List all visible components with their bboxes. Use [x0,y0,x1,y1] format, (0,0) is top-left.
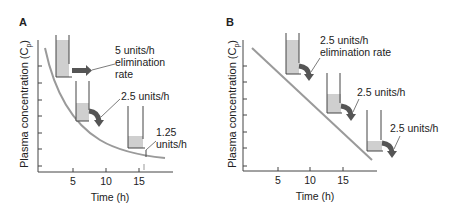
panel-b-xlabel: Time (h) [296,190,335,202]
panel-b-xtick-15: 15 [337,174,349,186]
panel-a-beaker-1 [56,35,115,77]
panel-b-ylabel: Plasma concentration (Cp) [226,40,240,168]
panel-a-beaker-3 [128,106,156,170]
panel-b-annotation-3: 2.5 units/h [390,122,438,134]
panel-a-xtick-10: 10 [100,175,112,187]
panel-a-beaker-2 [76,81,120,127]
panel-a-xlabel: Time (h) [91,191,130,203]
panel-b-beaker-3 [367,110,400,158]
panel-a-annotation-1: 5 units/h elimination rate [115,44,165,80]
panel-a-xtick-15: 15 [133,175,145,187]
panel-b-beaker-2 [327,73,359,121]
panel-b-xtick-5: 5 [275,174,281,186]
panel-a-annotation-3: 1.25 units/h [156,126,187,150]
panel-b-beaker-1 [286,33,320,81]
panel-a-annotation-2: 2.5 units/h [121,90,169,102]
panel-b-annotation-1: 2.5 units/h elimination rate [320,34,391,58]
panel-b-xtick-10: 10 [304,174,316,186]
panel-b-annotation-2: 2.5 units/h [357,86,405,98]
panel-b-label: B [226,16,234,28]
panel-b-linear-line [252,48,372,160]
panel-a-xtick-5: 5 [70,175,76,187]
